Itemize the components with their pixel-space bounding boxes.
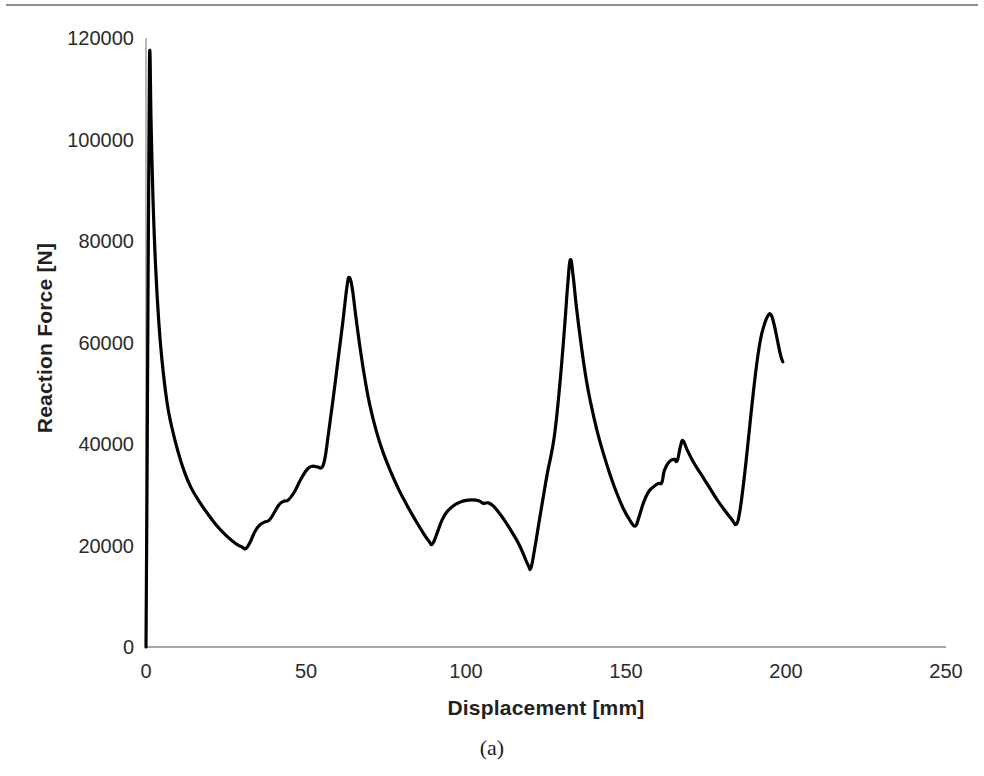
x-tick-label: 150 [609,660,642,682]
plot-background [146,30,946,647]
x-axis-title: Displacement [mm] [447,696,644,719]
y-tick-labels: 020000400006000080000100000120000 [67,27,134,658]
x-tick-label: 100 [449,660,482,682]
y-tick-label: 20000 [78,535,134,557]
subfigure-caption: (a) [0,735,984,761]
x-tick-label: 0 [140,660,151,682]
x-tick-label: 250 [929,660,962,682]
y-tick-label: 40000 [78,433,134,455]
y-tick-label: 100000 [67,129,134,151]
x-tick-label: 200 [769,660,802,682]
y-tick-label: 60000 [78,332,134,354]
y-tick-label: 0 [123,636,134,658]
reaction-force-chart: 020000400006000080000100000120000 050100… [0,0,984,776]
x-tick-label: 50 [295,660,317,682]
x-tick-labels: 050100150200250 [140,660,962,682]
figure-root: 020000400006000080000100000120000 050100… [0,0,984,776]
y-tick-label: 120000 [67,27,134,49]
y-tick-label: 80000 [78,230,134,252]
y-axis-title: Reaction Force [N] [33,243,56,433]
